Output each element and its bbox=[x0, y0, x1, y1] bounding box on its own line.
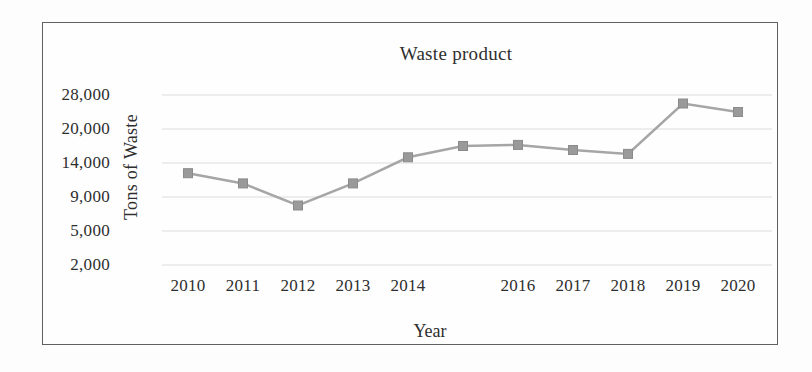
data-point-marker-2012 bbox=[294, 201, 303, 210]
waste-series-line bbox=[188, 104, 738, 206]
data-point-marker-2015 bbox=[459, 142, 468, 151]
data-point-marker-2014 bbox=[404, 153, 413, 162]
data-point-marker-2017 bbox=[569, 146, 578, 155]
data-point-marker-2016 bbox=[514, 140, 523, 149]
data-point-marker-2011 bbox=[239, 179, 248, 188]
chart-title: Waste product bbox=[160, 43, 752, 65]
data-point-marker-2019 bbox=[679, 99, 688, 108]
x-axis-title: Year bbox=[413, 321, 446, 342]
data-point-marker-2010 bbox=[184, 169, 193, 178]
data-point-marker-2018 bbox=[624, 149, 633, 158]
data-point-marker-2020 bbox=[734, 108, 743, 117]
chart-page: Waste product Tons of Waste Year 28,0002… bbox=[0, 0, 812, 372]
data-point-marker-2013 bbox=[349, 179, 358, 188]
y-axis-title: Tons of Waste bbox=[121, 114, 142, 220]
